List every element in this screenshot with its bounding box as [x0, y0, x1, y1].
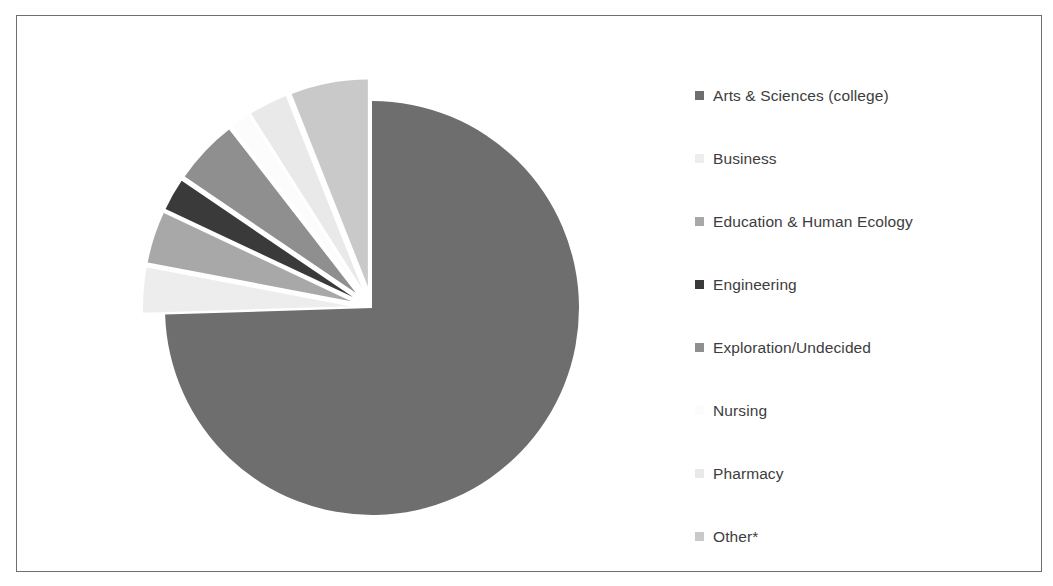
legend-item-label: Engineering [713, 277, 797, 293]
legend-item[interactable]: Nursing [695, 379, 1025, 442]
legend-item-label: Nursing [713, 403, 767, 419]
chart-plot-area: Arts & Sciences (college)BusinessEducati… [17, 16, 1043, 573]
legend-item-label: Exploration/Undecided [713, 340, 871, 356]
legend-item[interactable]: Arts & Sciences (college) [695, 64, 1025, 127]
legend-item-label: Other* [713, 529, 758, 545]
legend-swatch-icon [695, 154, 704, 163]
legend-swatch-icon [695, 343, 704, 352]
legend-item[interactable]: Pharmacy [695, 442, 1025, 505]
legend-swatch-icon [695, 406, 704, 415]
legend-item[interactable]: Engineering [695, 253, 1025, 316]
chart-legend: Arts & Sciences (college)BusinessEducati… [695, 64, 1025, 568]
pie-chart-graphic [17, 16, 717, 573]
legend-item-label: Education & Human Ecology [713, 214, 913, 230]
legend-item-label: Business [713, 151, 777, 167]
legend-item[interactable]: Education & Human Ecology [695, 190, 1025, 253]
legend-item[interactable]: Exploration/Undecided [695, 316, 1025, 379]
chart-figure-frame: Arts & Sciences (college)BusinessEducati… [16, 15, 1042, 572]
legend-item-label: Arts & Sciences (college) [713, 88, 889, 104]
legend-swatch-icon [695, 469, 704, 478]
legend-item[interactable]: Business [695, 127, 1025, 190]
legend-swatch-icon [695, 532, 704, 541]
pie-slice-group [143, 79, 579, 515]
legend-swatch-icon [695, 280, 704, 289]
legend-item-label: Pharmacy [713, 466, 784, 482]
legend-swatch-icon [695, 91, 704, 100]
legend-swatch-icon [695, 217, 704, 226]
legend-item[interactable]: Other* [695, 505, 1025, 568]
